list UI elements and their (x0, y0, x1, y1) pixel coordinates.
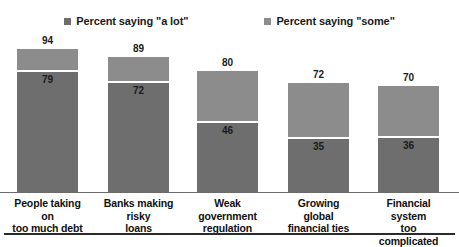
bar-group: 8046 (197, 0, 258, 193)
footer-divider (4, 233, 455, 235)
bar-segment-some (288, 83, 349, 140)
bar-stack: 36 (378, 86, 439, 193)
bar-segment-some (108, 57, 169, 83)
bar-stack: 35 (288, 83, 349, 193)
bar-stack: 79 (17, 49, 78, 193)
category-label: Banks making riskyloans (102, 197, 175, 235)
category-label: Growing globalfinancial ties (282, 197, 355, 235)
bar-segment-some (378, 86, 439, 138)
bar-total-value-label: 70 (378, 72, 439, 83)
bar-a-lot-value-label: 46 (197, 125, 258, 136)
category-label: Financial systemtoo complicated (372, 197, 445, 247)
bar-total-value-label: 89 (108, 43, 169, 54)
category-axis-line (0, 192, 459, 193)
bar-segment-a-lot: 36 (378, 138, 439, 193)
bar-group: 7235 (288, 0, 349, 193)
category-label-line1: Growing global (282, 197, 355, 222)
category-label: Weak governmentregulation (191, 197, 264, 235)
bar-a-lot-value-label: 36 (378, 140, 439, 151)
category-label-line1: Banks making risky (102, 197, 175, 222)
bar-segment-a-lot: 46 (197, 123, 258, 193)
category-label-line1: Financial system (372, 197, 445, 222)
category-label-line1: Weak government (191, 197, 264, 222)
bar-group: 8972 (108, 0, 169, 193)
bar-segment-a-lot: 72 (108, 83, 169, 193)
bar-group: 7036 (378, 0, 439, 193)
bar-stack: 72 (108, 57, 169, 193)
category-label-line1: People taking on (11, 197, 84, 222)
bar-segment-some (197, 71, 258, 123)
bar-stack: 46 (197, 71, 258, 193)
plot-area: 94798972804672357036 (0, 0, 459, 193)
bar-segment-some (17, 49, 78, 72)
category-label-row: People taking ontoo much debtBanks makin… (0, 197, 459, 229)
bar-total-value-label: 80 (197, 57, 258, 68)
bar-segment-a-lot: 35 (288, 139, 349, 193)
category-label: People taking ontoo much debt (11, 197, 84, 235)
bar-a-lot-value-label: 35 (288, 141, 349, 152)
bar-total-value-label: 94 (17, 35, 78, 46)
bar-segment-a-lot: 79 (17, 72, 78, 193)
bar-total-value-label: 72 (288, 69, 349, 80)
bar-a-lot-value-label: 79 (17, 74, 78, 85)
bar-a-lot-value-label: 72 (108, 85, 169, 96)
bar-group: 9479 (17, 0, 78, 193)
